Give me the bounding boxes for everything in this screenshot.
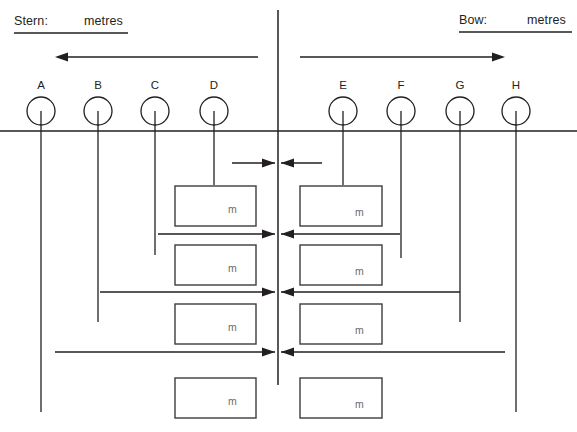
value-box-bow-1[interactable] xyxy=(300,186,382,226)
value-box-stern-1[interactable] xyxy=(175,186,256,226)
stern-unit-label: metres xyxy=(84,14,123,28)
value-box-stern-4-unit: m xyxy=(228,395,237,407)
measure-arrow-4-left-head xyxy=(262,347,275,356)
node-label-G: G xyxy=(450,79,470,91)
value-box-bow-3[interactable] xyxy=(300,304,382,344)
measure-arrow-2-left-head xyxy=(262,229,275,238)
measure-arrow-4-right-head xyxy=(281,347,294,356)
value-box-stern-4[interactable] xyxy=(175,378,256,418)
value-box-stern-3[interactable] xyxy=(175,304,256,344)
value-box-bow-2-unit: m xyxy=(355,265,364,277)
measure-arrow-2-right-head xyxy=(281,229,294,238)
value-box-bow-1-unit: m xyxy=(355,206,364,218)
value-box-stern-3-unit: m xyxy=(228,321,237,333)
value-box-bow-4[interactable] xyxy=(300,378,382,418)
diagram-canvas xyxy=(0,0,577,432)
node-label-A: A xyxy=(31,79,51,91)
value-box-stern-2-unit: m xyxy=(228,262,237,274)
value-box-stern-1-unit: m xyxy=(228,203,237,215)
measure-arrow-1-left-head xyxy=(262,158,275,167)
node-label-C: C xyxy=(145,79,165,91)
value-box-stern-2[interactable] xyxy=(175,245,256,285)
bow-unit-label: metres xyxy=(527,13,566,27)
bow-direction-arrow-head xyxy=(492,52,505,61)
ship-draught-measurement-diagram: Stern: metres Bow: metres ABCDEFGHmmmmmm… xyxy=(0,0,577,432)
value-box-bow-4-unit: m xyxy=(355,398,364,410)
bow-label: Bow: xyxy=(459,13,487,27)
node-label-F: F xyxy=(391,79,411,91)
measure-arrow-1-right-head xyxy=(281,158,294,167)
measure-arrow-3-right-head xyxy=(281,287,294,296)
node-label-B: B xyxy=(88,79,108,91)
node-label-D: D xyxy=(204,79,224,91)
node-label-E: E xyxy=(333,79,353,91)
measure-arrow-3-left-head xyxy=(262,287,275,296)
stern-label: Stern: xyxy=(14,14,48,28)
value-box-bow-2[interactable] xyxy=(300,245,382,285)
node-label-H: H xyxy=(506,79,526,91)
stern-direction-arrow-head xyxy=(55,52,68,61)
value-box-bow-3-unit: m xyxy=(355,324,364,336)
